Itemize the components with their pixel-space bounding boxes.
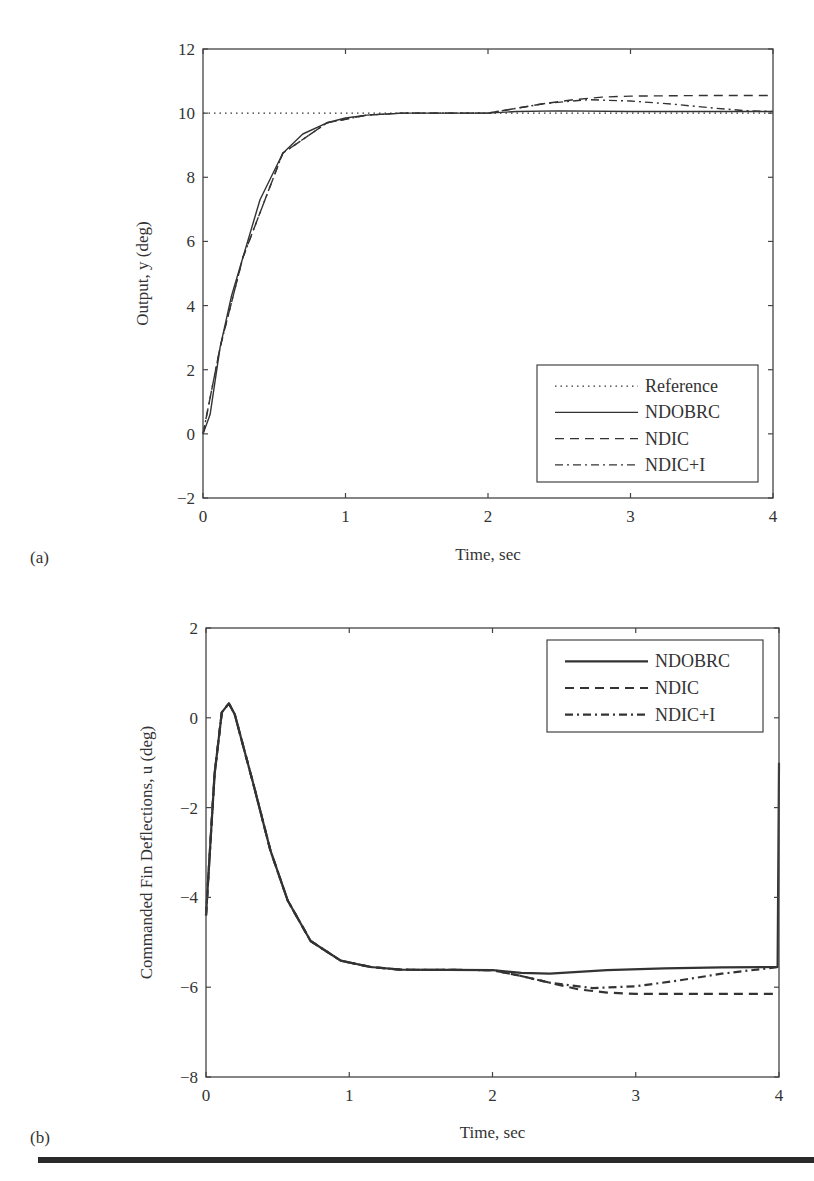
x-tick-label: 2 bbox=[484, 507, 493, 526]
y-tick-label: 6 bbox=[187, 232, 196, 251]
y-tick-label: 8 bbox=[187, 168, 196, 187]
y-tick-label: −2 bbox=[180, 799, 198, 818]
x-axis-label: Time, sec bbox=[460, 1123, 526, 1142]
legend: ReferenceNDOBRCNDICNDIC+I bbox=[537, 365, 758, 482]
x-tick-label: 0 bbox=[199, 507, 208, 526]
y-tick-label: 4 bbox=[187, 297, 196, 316]
legend-label: NDOBRC bbox=[655, 651, 730, 671]
x-tick-label: 1 bbox=[341, 507, 350, 526]
y-tick-label: 0 bbox=[190, 709, 199, 728]
bottom-rule bbox=[38, 1157, 814, 1163]
y-tick-label: −8 bbox=[180, 1068, 198, 1087]
series-ndic bbox=[206, 703, 779, 994]
panel-a-label: (a) bbox=[30, 548, 49, 568]
y-tick-label: −4 bbox=[180, 888, 199, 907]
series-ndobrc bbox=[206, 703, 779, 973]
x-tick-label: 3 bbox=[626, 507, 635, 526]
legend-label: NDIC+I bbox=[645, 455, 705, 475]
figure: 01234−2024681012Time, secOutput, y (deg)… bbox=[0, 0, 814, 1181]
legend-label: NDIC bbox=[645, 429, 689, 449]
x-tick-label: 0 bbox=[202, 1086, 211, 1105]
y-tick-label: −2 bbox=[177, 489, 195, 508]
legend-label: Reference bbox=[645, 376, 718, 396]
legend-label: NDIC+I bbox=[655, 705, 715, 725]
y-tick-label: 2 bbox=[187, 361, 196, 380]
y-tick-label: 10 bbox=[178, 104, 195, 123]
x-tick-label: 3 bbox=[632, 1086, 641, 1105]
legend-label: NDOBRC bbox=[645, 402, 720, 422]
series-ndic-i bbox=[206, 703, 779, 988]
x-tick-label: 1 bbox=[345, 1086, 354, 1105]
chart-b: 01234−8−6−4−202Time, secCommanded Fin De… bbox=[137, 619, 784, 1142]
x-tick-label: 4 bbox=[775, 1086, 784, 1105]
y-tick-label: −6 bbox=[180, 978, 198, 997]
legend-label: NDIC bbox=[655, 678, 699, 698]
y-axis-label: Commanded Fin Deflections, u (deg) bbox=[137, 726, 156, 980]
x-tick-label: 4 bbox=[769, 507, 778, 526]
chart-a: 01234−2024681012Time, secOutput, y (deg)… bbox=[133, 40, 778, 564]
y-tick-label: 12 bbox=[178, 40, 195, 59]
y-tick-label: 2 bbox=[190, 619, 199, 638]
y-tick-label: 0 bbox=[187, 425, 196, 444]
x-tick-label: 2 bbox=[488, 1086, 497, 1105]
legend: NDOBRCNDICNDIC+I bbox=[547, 640, 763, 732]
y-axis-label: Output, y (deg) bbox=[133, 221, 152, 325]
x-axis-label: Time, sec bbox=[455, 545, 521, 564]
panel-b-label: (b) bbox=[30, 1128, 50, 1148]
